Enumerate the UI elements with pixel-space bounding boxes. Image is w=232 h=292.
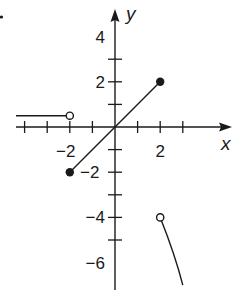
problem-marker-dot	[0, 15, 3, 18]
y-tick-label: −4	[86, 208, 105, 227]
x-tick-label: 2	[155, 142, 164, 161]
open-endpoint-circle	[157, 214, 164, 221]
closed-endpoint-dot	[66, 168, 74, 176]
y-tick-label: 4	[96, 28, 105, 47]
x-tick-label: −2	[56, 142, 75, 161]
y-axis-label: y	[124, 3, 137, 24]
y-tick-label: −2	[80, 163, 99, 182]
open-endpoint-circle	[66, 112, 73, 119]
closed-endpoint-dot	[156, 78, 164, 86]
x-axis-label: x	[220, 133, 232, 154]
piecewise-function-graph: xy−2242−2−4−6	[0, 0, 232, 292]
y-tick-label: −6	[86, 254, 105, 273]
piece-3-curve	[160, 217, 183, 285]
y-tick-label: 2	[96, 73, 105, 92]
